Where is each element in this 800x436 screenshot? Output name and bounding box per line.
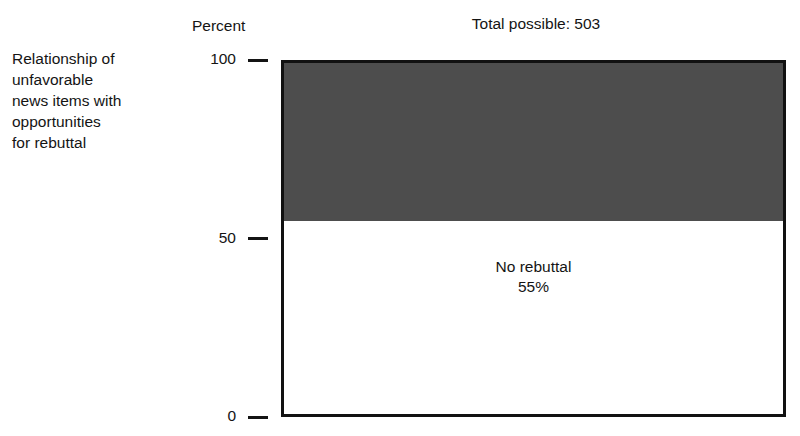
bar-segment-no-rebuttal: No rebuttal 55% <box>284 221 783 414</box>
bar-segment-rebuttal <box>284 63 783 221</box>
bar-segment-value: 55% <box>284 277 783 297</box>
bar-segment-label: No rebuttal 55% <box>284 257 783 297</box>
plot-area: No rebuttal 55% <box>281 60 786 417</box>
y-axis-tick-label: 0 <box>227 408 236 424</box>
chart-title: Total possible: 503 <box>286 14 786 33</box>
chart-caption: Relationship of unfavorable news items w… <box>12 48 187 153</box>
y-axis-tick-dash-icon <box>248 59 268 62</box>
y-axis-tick-dash-icon <box>248 237 268 240</box>
y-axis-tick-label: 100 <box>210 51 236 67</box>
stacked-bar: No rebuttal 55% <box>284 63 783 414</box>
y-axis-tick-dash-icon <box>248 416 268 419</box>
bar-segment-name: No rebuttal <box>496 258 572 275</box>
y-axis-tick-label: 50 <box>219 230 236 246</box>
y-axis-unit-label: Percent <box>192 16 245 35</box>
